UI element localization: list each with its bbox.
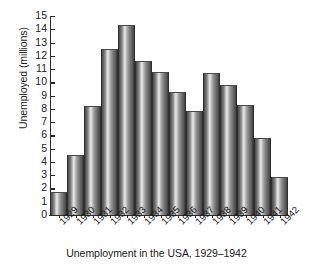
bar (101, 49, 118, 215)
bar (118, 25, 135, 215)
x-tick: 1938 (203, 216, 220, 250)
bar-slot (135, 16, 152, 215)
bar-slot (152, 16, 169, 215)
bar (254, 138, 271, 215)
bar (203, 73, 220, 215)
y-tick-label: 3 (41, 168, 47, 181)
x-tick: 1935 (152, 216, 169, 250)
bar-slot (203, 16, 220, 215)
bar-slot (50, 16, 67, 215)
x-tick: 1941 (254, 216, 271, 250)
y-tick-label: 10 (35, 75, 47, 88)
y-tick-label: 11 (36, 62, 47, 75)
bar-slot (186, 16, 203, 215)
y-tick-label: 0 (41, 208, 47, 221)
x-tick: 1934 (135, 216, 152, 250)
y-tick-label: 4 (41, 155, 47, 168)
y-axis-title: Unemployed (millions) (17, 0, 29, 173)
y-tick-label: 1 (41, 195, 47, 208)
y-tick-label: 15 (35, 9, 47, 22)
x-tick: 1932 (101, 216, 118, 250)
x-tick: 1931 (84, 216, 101, 250)
bar (84, 106, 101, 215)
x-tick: 1939 (220, 216, 237, 250)
y-tick-label: 12 (35, 49, 47, 62)
y-tick-label: 13 (35, 36, 47, 49)
y-tick-label: 2 (41, 181, 47, 194)
bar-chart-figure: Unemployed (millions) 151413121110987654… (0, 0, 313, 266)
bar-slot (271, 16, 288, 215)
bar-slot (67, 16, 84, 215)
y-tick-label: 8 (41, 102, 47, 115)
bar-slot (220, 16, 237, 215)
x-axis-ticks: 1929193019311932193319341935193619371938… (50, 216, 288, 250)
bar-slot (118, 16, 135, 215)
bar-slot (84, 16, 101, 215)
y-tick-label: 5 (41, 142, 47, 155)
bar (152, 72, 169, 215)
bar-slot (254, 16, 271, 215)
y-tick-label: 9 (41, 89, 47, 102)
bar-slot (169, 16, 186, 215)
y-tick-label: 7 (41, 115, 47, 128)
x-tick: 1940 (237, 216, 254, 250)
bar (220, 85, 237, 215)
x-tick: 1929 (50, 216, 67, 250)
chart-caption: Unemployment in the USA, 1929–1942 (0, 247, 313, 259)
bar (135, 61, 152, 215)
bar-slot (237, 16, 254, 215)
bar-slot (101, 16, 118, 215)
y-tick-label: 6 (41, 128, 47, 141)
bar (237, 105, 254, 215)
x-tick: 1937 (186, 216, 203, 250)
x-tick: 1936 (169, 216, 186, 250)
x-tick: 1930 (67, 216, 84, 250)
x-tick: 1942 (271, 216, 288, 250)
bar-series (50, 16, 288, 215)
bar (186, 111, 203, 215)
y-tick-label: 14 (35, 22, 47, 35)
bar (169, 92, 186, 215)
x-tick: 1933 (118, 216, 135, 250)
